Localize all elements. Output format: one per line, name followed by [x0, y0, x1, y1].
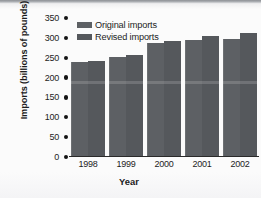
x-axis-tick-label: 2000: [145, 159, 183, 169]
y-axis-tick-dot-icon: [64, 155, 68, 159]
y-axis-tick: 200: [26, 73, 68, 83]
bar-original-imports: [71, 62, 88, 157]
bar-group: [183, 36, 221, 157]
y-axis-tick-dot-icon: [64, 16, 68, 20]
x-axis-tick-labels: 19981999200020012002: [69, 159, 259, 171]
chart-legend: Original imports Revised imports: [77, 19, 159, 43]
y-axis-tick: 350: [26, 13, 68, 23]
x-axis-line: [69, 156, 259, 157]
y-axis-tick-dot-icon: [64, 36, 68, 40]
y-axis-tick-dot-icon: [64, 75, 68, 79]
y-axis-tick-dot-icon: [64, 56, 68, 60]
bar-revised-imports: [164, 41, 181, 157]
x-axis-tick-label: 2002: [221, 159, 259, 169]
x-axis-tick-label: 1998: [69, 159, 107, 169]
legend-label-original: Original imports: [95, 20, 157, 30]
y-axis-tick: 50: [26, 132, 68, 142]
y-axis-tick: 300: [26, 33, 68, 43]
y-axis-tick-dot-icon: [64, 115, 68, 119]
bar-revised-imports: [126, 55, 143, 157]
bar-original-imports: [147, 43, 164, 157]
y-axis-tick: 150: [26, 92, 68, 102]
legend-label-revised: Revised imports: [95, 32, 159, 42]
bar-group: [107, 55, 145, 157]
bar-revised-imports: [202, 36, 219, 157]
y-axis-tick-label: 350: [45, 13, 59, 23]
bar-revised-imports: [240, 33, 257, 157]
y-axis-tick: 100: [26, 112, 68, 122]
y-axis-tick: 250: [26, 53, 68, 63]
bar-group: [69, 61, 107, 157]
bar-group: [221, 33, 259, 157]
y-axis-tick-label: 100: [45, 112, 59, 122]
plot-area: Original imports Revised imports: [69, 18, 259, 157]
legend-item-original: Original imports: [77, 19, 159, 30]
bar-original-imports: [223, 39, 240, 157]
bar-group: [145, 41, 183, 157]
x-axis-tick-label: 1999: [107, 159, 145, 169]
bar-original-imports: [185, 40, 202, 157]
y-axis-tick-dot-icon: [64, 135, 68, 139]
y-axis-tick-label: 50: [49, 132, 59, 142]
bar-revised-imports: [88, 61, 105, 157]
y-axis-tick-dot-icon: [64, 95, 68, 99]
y-axis-tick: 0: [26, 152, 68, 162]
y-axis-tick-label: 300: [45, 33, 59, 43]
chart-figure: Imports (billions of pounds) 35030025020…: [0, 0, 261, 198]
y-axis-tick-label: 0: [54, 152, 59, 162]
y-axis-tick-label: 200: [45, 73, 59, 83]
x-axis-tick-label: 2001: [183, 159, 221, 169]
bar-original-imports: [109, 57, 126, 157]
y-axis-tick-label: 150: [45, 92, 59, 102]
legend-swatch-original-icon: [77, 22, 92, 28]
legend-item-revised: Revised imports: [77, 31, 159, 42]
x-axis-title: Year: [69, 176, 189, 187]
y-axis-tick-label: 250: [45, 53, 59, 63]
legend-swatch-revised-icon: [77, 34, 92, 40]
